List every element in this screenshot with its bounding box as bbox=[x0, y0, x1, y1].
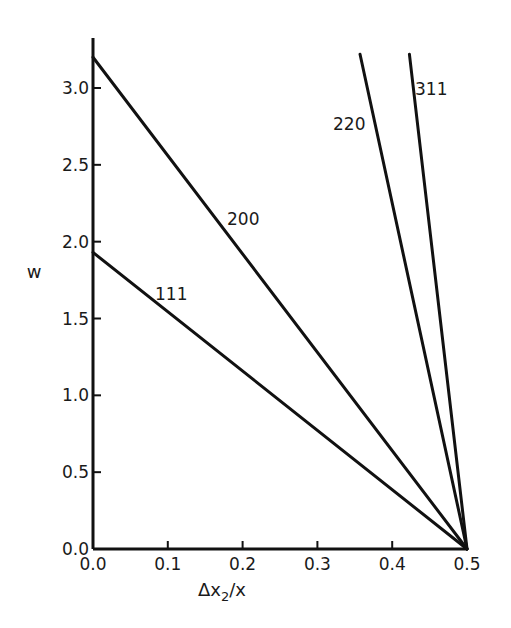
series-line-311 bbox=[409, 54, 467, 549]
axes: 0.00.51.01.52.02.53.00.00.10.20.30.40.5w… bbox=[27, 38, 481, 604]
series-line-220 bbox=[360, 54, 467, 549]
series-lines bbox=[93, 54, 467, 549]
x-tick-label: 0.5 bbox=[453, 554, 480, 574]
y-tick-label: 1.5 bbox=[62, 309, 89, 329]
y-tick-label: 3.0 bbox=[62, 78, 89, 98]
y-axis-title: w bbox=[27, 261, 42, 282]
series-label-111: 111 bbox=[155, 284, 187, 304]
series-labels: 111200220311 bbox=[155, 79, 447, 304]
x-tick-label: 0.4 bbox=[379, 554, 406, 574]
x-tick-label: 0.1 bbox=[154, 554, 181, 574]
y-tick-label: 1.0 bbox=[62, 385, 89, 405]
series-label-200: 200 bbox=[227, 209, 259, 229]
x-axis-title: Δx2/x bbox=[198, 579, 246, 604]
x-tick-label: 0.2 bbox=[229, 554, 256, 574]
x-tick-label: 0.0 bbox=[79, 554, 106, 574]
x-tick-label: 0.3 bbox=[304, 554, 331, 574]
series-label-220: 220 bbox=[333, 114, 365, 134]
series-line-111 bbox=[93, 252, 467, 549]
y-tick-label: 2.0 bbox=[62, 232, 89, 252]
y-tick-label: 2.5 bbox=[62, 155, 89, 175]
series-label-311: 311 bbox=[415, 79, 447, 99]
series-line-200 bbox=[93, 57, 467, 549]
y-tick-label: 0.5 bbox=[62, 462, 89, 482]
chart: 0.00.51.01.52.02.53.00.00.10.20.30.40.5w… bbox=[0, 0, 511, 628]
